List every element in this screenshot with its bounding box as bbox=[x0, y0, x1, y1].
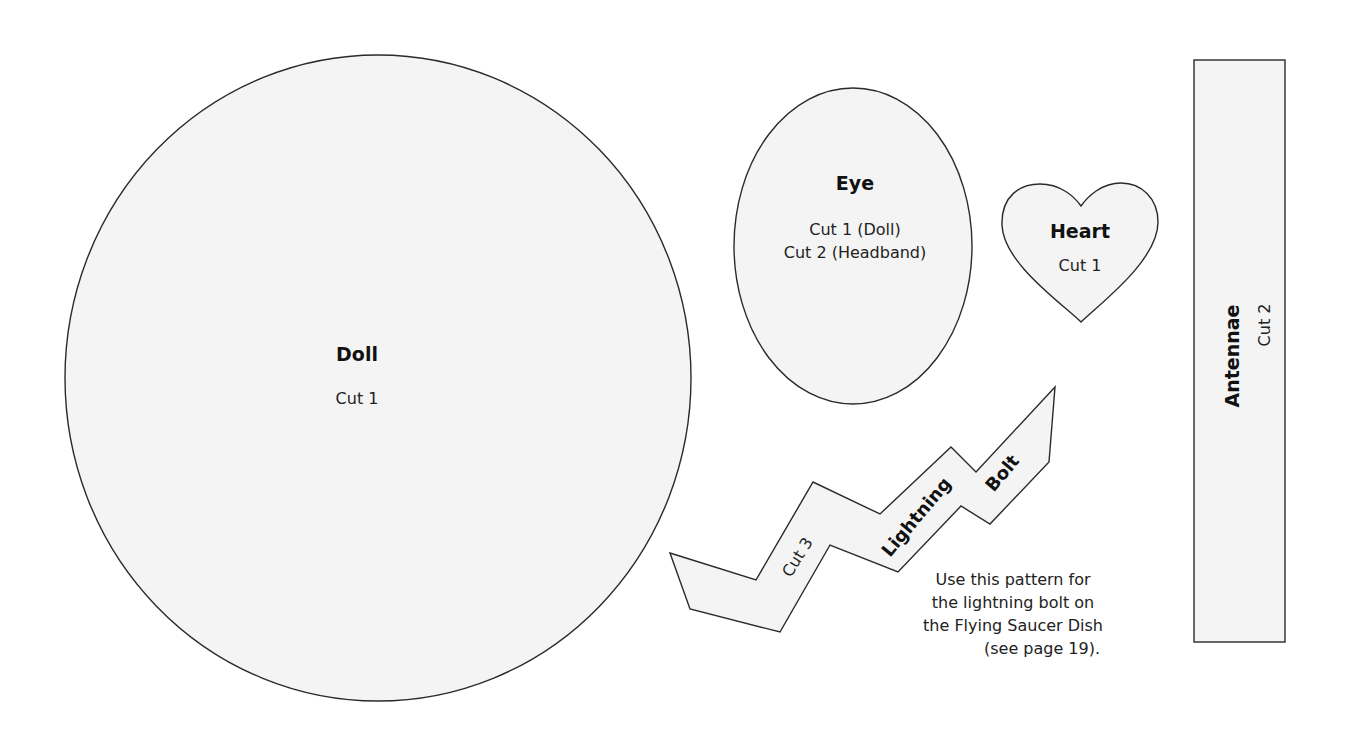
note-line: the lightning bolt on bbox=[932, 593, 1094, 612]
heart-piece: Heart Cut 1 bbox=[1002, 183, 1158, 322]
heart-outline bbox=[1002, 183, 1158, 322]
doll-outline bbox=[65, 55, 691, 701]
doll-cut-count: Cut 1 bbox=[336, 389, 379, 408]
note-line: Use this pattern for bbox=[935, 570, 1091, 589]
antennae-piece: Antennae Cut 2 bbox=[1194, 60, 1285, 642]
pattern-sheet: Doll Cut 1 Eye Cut 1 (Doll) Cut 2 (Headb… bbox=[0, 0, 1345, 739]
note-line: the Flying Saucer Dish bbox=[923, 616, 1103, 635]
antennae-cut-count: Cut 2 bbox=[1255, 304, 1274, 347]
note-line: (see page 19). bbox=[984, 639, 1100, 658]
heart-cut-count: Cut 1 bbox=[1059, 256, 1102, 275]
usage-note: Use this pattern for the lightning bolt … bbox=[923, 570, 1103, 658]
eye-label: Eye bbox=[836, 172, 874, 194]
doll-piece: Doll Cut 1 bbox=[65, 55, 691, 701]
eye-cut-headband: Cut 2 (Headband) bbox=[784, 243, 927, 262]
doll-label: Doll bbox=[336, 343, 378, 365]
eye-cut-doll: Cut 1 (Doll) bbox=[809, 220, 900, 239]
antennae-label: Antennae bbox=[1221, 305, 1243, 408]
heart-label: Heart bbox=[1050, 220, 1110, 242]
eye-piece: Eye Cut 1 (Doll) Cut 2 (Headband) bbox=[734, 88, 972, 404]
